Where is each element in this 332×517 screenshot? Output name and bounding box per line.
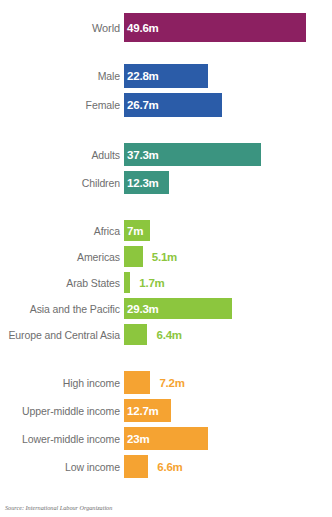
bar-row: Africa7m bbox=[0, 220, 332, 241]
bar-track: 12.3m bbox=[124, 171, 332, 194]
bar-row: High income7.2m bbox=[0, 371, 332, 394]
bar-track: 7m bbox=[124, 220, 332, 241]
bar bbox=[124, 371, 150, 394]
bar-category-label: Adults bbox=[0, 149, 124, 161]
bar bbox=[124, 455, 148, 478]
bar-track: 5.1m bbox=[124, 246, 332, 267]
bar bbox=[124, 272, 130, 293]
bar-category-label: Americas bbox=[0, 251, 124, 263]
bar-category-label: Children bbox=[0, 177, 124, 189]
bar-row: World49.6m bbox=[0, 13, 332, 42]
bar-chart: World49.6m Male22.8mFemale26.7m Adults37… bbox=[0, 0, 332, 517]
bar-category-label: Low income bbox=[0, 461, 124, 473]
bar-category-label: Asia and the Pacific bbox=[0, 303, 124, 315]
bar: 49.6m bbox=[124, 13, 306, 42]
bar: 23m bbox=[124, 427, 208, 450]
bar-value-label: 5.1m bbox=[143, 251, 177, 263]
bar-category-label: High income bbox=[0, 377, 124, 389]
bar-track: 12.7m bbox=[124, 399, 332, 422]
bar-track: 1.7m bbox=[124, 272, 332, 293]
bar-track: 37.3m bbox=[124, 143, 332, 166]
bar-row: Asia and the Pacific29.3m bbox=[0, 298, 332, 319]
bar: 37.3m bbox=[124, 143, 261, 166]
bar-value-label: 6.6m bbox=[148, 461, 182, 473]
bar-track: 29.3m bbox=[124, 298, 332, 319]
bar-row: Female26.7m bbox=[0, 93, 332, 117]
bar-track: 26.7m bbox=[124, 93, 332, 117]
bar-value-label: 22.8m bbox=[124, 70, 159, 82]
bar-row: Children12.3m bbox=[0, 171, 332, 194]
bar-row: Male22.8m bbox=[0, 64, 332, 88]
bar-value-label: 29.3m bbox=[124, 303, 159, 315]
chart-group-sex: Male22.8mFemale26.7m bbox=[0, 64, 332, 117]
bar-value-label: 1.7m bbox=[130, 277, 164, 289]
bar-value-label: 26.7m bbox=[124, 99, 159, 111]
bar-track: 22.8m bbox=[124, 64, 332, 88]
bar: 12.3m bbox=[124, 171, 169, 194]
chart-group-income: High income7.2mUpper-middle income12.7mL… bbox=[0, 371, 332, 478]
bar-row: Low income6.6m bbox=[0, 455, 332, 478]
bar-row: Adults37.3m bbox=[0, 143, 332, 166]
bar-track: 7.2m bbox=[124, 371, 332, 394]
bar-value-label: 49.6m bbox=[124, 22, 159, 34]
bar-category-label: Female bbox=[0, 99, 124, 111]
bar-value-label: 23m bbox=[124, 433, 149, 445]
bar: 29.3m bbox=[124, 298, 232, 319]
bar-category-label: Male bbox=[0, 70, 124, 82]
bar-row: Lower-middle income23m bbox=[0, 427, 332, 450]
bar-row: Europe and Central Asia6.4m bbox=[0, 324, 332, 345]
bar-value-label: 6.4m bbox=[147, 329, 181, 341]
bar-track: 6.4m bbox=[124, 324, 332, 345]
chart-group-region: Africa7mAmericas5.1mArab States1.7mAsia … bbox=[0, 220, 332, 345]
bar-row: Americas5.1m bbox=[0, 246, 332, 267]
bar-row: Upper-middle income12.7m bbox=[0, 399, 332, 422]
bar-category-label: Europe and Central Asia bbox=[0, 329, 124, 341]
bar-value-label: 12.3m bbox=[124, 177, 159, 189]
bar-category-label: Arab States bbox=[0, 277, 124, 289]
bar-value-label: 7.2m bbox=[150, 377, 184, 389]
bar bbox=[124, 246, 143, 267]
bar-value-label: 7m bbox=[124, 225, 143, 237]
chart-group-age: Adults37.3mChildren12.3m bbox=[0, 143, 332, 194]
bar-row: Arab States1.7m bbox=[0, 272, 332, 293]
bar-category-label: Africa bbox=[0, 225, 124, 237]
bar-track: 23m bbox=[124, 427, 332, 450]
source-note: Source: International Labour Organizatio… bbox=[5, 504, 112, 511]
bar-category-label: Upper-middle income bbox=[0, 405, 124, 417]
bar: 12.7m bbox=[124, 399, 171, 422]
bar-category-label: World bbox=[0, 22, 124, 34]
bar-value-label: 12.7m bbox=[124, 405, 159, 417]
bar-track: 49.6m bbox=[124, 13, 332, 42]
bar: 26.7m bbox=[124, 93, 222, 117]
chart-group-world: World49.6m bbox=[0, 13, 332, 42]
bar-category-label: Lower-middle income bbox=[0, 433, 124, 445]
bar: 22.8m bbox=[124, 64, 208, 88]
bar-value-label: 37.3m bbox=[124, 149, 159, 161]
bar bbox=[124, 324, 147, 345]
bar-track: 6.6m bbox=[124, 455, 332, 478]
bar: 7m bbox=[124, 220, 150, 241]
